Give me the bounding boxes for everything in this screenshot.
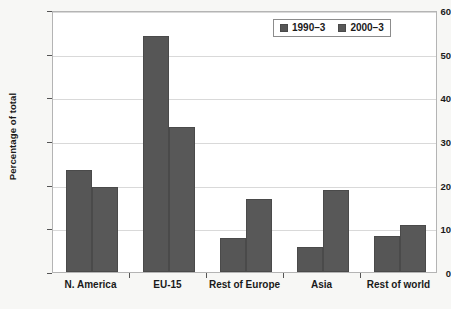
legend-item-label: 1990–3	[292, 22, 325, 33]
bar	[297, 247, 323, 272]
legend-item-label: 2000–3	[350, 22, 383, 33]
bar-group	[130, 12, 207, 272]
legend-swatch-icon	[280, 24, 288, 32]
y-axis-tick-label: 10	[407, 224, 451, 235]
x-axis-tick-label: N. America	[65, 279, 117, 290]
y-axis-tick-label: 50	[407, 49, 451, 60]
x-axis-tick-label: Rest of world	[367, 279, 430, 290]
y-axis-tick-mark	[47, 98, 52, 99]
bar	[220, 238, 246, 272]
bar	[169, 127, 195, 272]
bar	[92, 187, 118, 272]
plot-area	[52, 11, 437, 273]
bar-group	[207, 12, 284, 272]
bar-series-container	[53, 12, 436, 272]
y-axis-tick-label: 30	[407, 137, 451, 148]
y-axis-tick-mark	[47, 11, 52, 12]
y-axis-tick-label: 40	[407, 93, 451, 104]
y-axis-tick-mark	[47, 273, 52, 274]
y-axis-tick-mark	[47, 142, 52, 143]
bar-group	[284, 12, 361, 272]
bar	[323, 190, 349, 272]
x-axis-tick-mark	[360, 273, 361, 278]
y-axis-title-label: Percentage of total	[8, 92, 19, 179]
y-axis-tick-label: 20	[407, 180, 451, 191]
bar-chart-figure: Percentage of total 0102030405060 N. Ame…	[0, 0, 451, 309]
bar	[143, 36, 169, 272]
bar	[374, 236, 400, 272]
x-axis-tick-mark	[206, 273, 207, 278]
bar	[66, 170, 92, 272]
x-axis-tick-mark	[283, 273, 284, 278]
bar-group	[53, 12, 130, 272]
x-axis-tick-label: EU-15	[153, 279, 181, 290]
chart-legend: 1990–32000–3	[273, 19, 391, 37]
x-axis-tick-mark	[129, 273, 130, 278]
y-axis-title: Percentage of total	[4, 0, 22, 272]
legend-item: 1990–3	[280, 22, 325, 33]
y-axis-tick-mark	[47, 186, 52, 187]
y-axis-tick-mark	[47, 229, 52, 230]
legend-item: 2000–3	[338, 22, 383, 33]
x-axis-tick-label: Rest of Europe	[209, 279, 280, 290]
x-axis-tick-label: Asia	[311, 279, 332, 290]
y-axis-tick-label: 0	[407, 268, 451, 279]
legend-swatch-icon	[338, 24, 346, 32]
y-axis-tick-mark	[47, 55, 52, 56]
y-axis-tick-label: 60	[407, 6, 451, 17]
bar	[246, 199, 272, 272]
